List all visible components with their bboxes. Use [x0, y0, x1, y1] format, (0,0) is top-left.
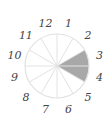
- sector-label-4: 4: [95, 71, 103, 84]
- sector-label-6: 6: [65, 103, 72, 116]
- sector-label-10: 10: [7, 49, 21, 62]
- spinner-wheel: 123456789101112: [0, 0, 108, 118]
- sector-label-2: 2: [84, 29, 92, 42]
- sector-label-12: 12: [39, 17, 53, 30]
- sector-label-3: 3: [96, 49, 103, 62]
- sector-label-7: 7: [42, 103, 49, 116]
- sector-label-1: 1: [65, 17, 72, 30]
- sector-label-11: 11: [19, 29, 33, 42]
- sector-label-5: 5: [85, 91, 92, 104]
- sector-label-8: 8: [22, 91, 29, 104]
- sector-label-9: 9: [11, 71, 18, 84]
